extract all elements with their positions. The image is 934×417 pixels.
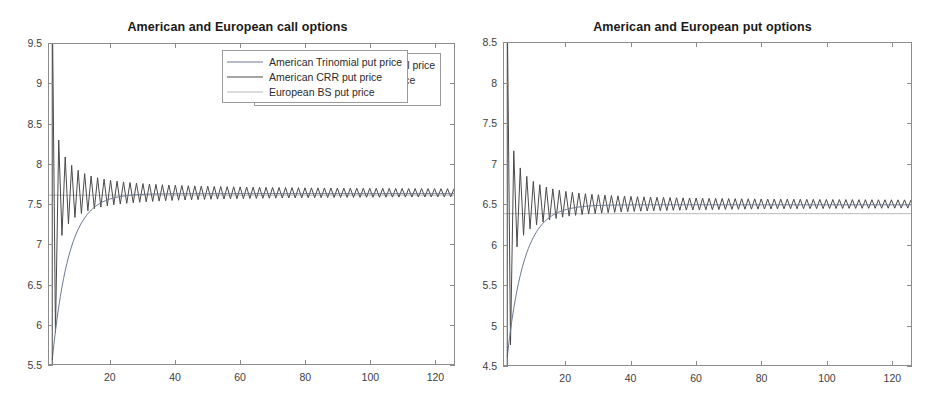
panel-put-options: American and European put options bbox=[467, 0, 934, 417]
x-axis-tick-mark bbox=[892, 361, 893, 366]
y-axis-tick-label: 6 bbox=[459, 239, 497, 251]
y-axis-tick-mark bbox=[450, 365, 455, 366]
x-axis-tick-label: 20 bbox=[104, 371, 116, 383]
x-axis-tick-label: 60 bbox=[690, 372, 702, 384]
y-axis-tick-mark bbox=[503, 326, 508, 327]
y-axis-tick-label: 7 bbox=[459, 158, 497, 170]
x-axis-tick-mark bbox=[827, 361, 828, 366]
x-axis-tick-mark bbox=[565, 361, 566, 366]
y-axis-tick-label: 6.5 bbox=[459, 198, 497, 210]
y-axis-tick-mark bbox=[450, 164, 455, 165]
x-axis-tick-label: 100 bbox=[362, 371, 380, 383]
line-swatch-icon bbox=[227, 87, 263, 97]
y-axis-tick-mark bbox=[503, 123, 508, 124]
put-chart-title: American and European put options bbox=[469, 20, 934, 34]
legend-item: American CRR put price bbox=[227, 69, 402, 84]
y-axis-tick-mark bbox=[450, 43, 455, 44]
y-axis-tick-label: 8.5 bbox=[4, 118, 42, 130]
x-axis-tick-label: 80 bbox=[756, 372, 768, 384]
y-axis-tick-mark bbox=[503, 164, 508, 165]
y-axis-tick-mark bbox=[450, 244, 455, 245]
x-axis-tick-label: 120 bbox=[427, 371, 445, 383]
x-axis-tick-mark bbox=[696, 361, 697, 366]
x-axis-tick-mark bbox=[370, 360, 371, 365]
y-axis-tick-mark bbox=[48, 325, 53, 326]
x-axis-tick-mark bbox=[240, 360, 241, 365]
y-axis-tick-mark bbox=[907, 245, 912, 246]
y-axis-tick-label: 7.5 bbox=[4, 198, 42, 210]
y-axis-tick-mark bbox=[907, 83, 912, 84]
legend-item: American Trinomial put price bbox=[227, 54, 402, 69]
y-axis-tick-label: 9 bbox=[4, 77, 42, 89]
y-axis-tick-label: 5 bbox=[459, 320, 497, 332]
y-axis-tick-label: 4.5 bbox=[459, 360, 497, 372]
y-axis-tick-label: 7 bbox=[4, 238, 42, 250]
y-axis-tick-mark bbox=[503, 366, 508, 367]
y-axis-tick-mark bbox=[907, 164, 912, 165]
y-axis-tick-mark bbox=[503, 245, 508, 246]
y-axis-tick-mark bbox=[907, 42, 912, 43]
x-axis-tick-mark bbox=[175, 360, 176, 365]
x-axis-tick-mark bbox=[761, 361, 762, 366]
x-axis-tick-mark bbox=[827, 42, 828, 47]
y-axis-tick-mark bbox=[503, 204, 508, 205]
legend-item: European BS put price bbox=[227, 84, 402, 99]
y-axis-tick-mark bbox=[48, 365, 53, 366]
call-chart-title: American and European call options bbox=[4, 20, 471, 34]
y-axis-tick-mark bbox=[450, 83, 455, 84]
legend-label: American CRR put price bbox=[269, 71, 382, 83]
y-axis-tick-mark bbox=[450, 325, 455, 326]
x-axis-tick-mark bbox=[110, 43, 111, 48]
x-axis-tick-label: 100 bbox=[818, 372, 836, 384]
x-axis-tick-label: 40 bbox=[625, 372, 637, 384]
x-axis-tick-mark bbox=[240, 43, 241, 48]
x-axis-tick-mark bbox=[631, 361, 632, 366]
x-axis-tick-label: 80 bbox=[299, 371, 311, 383]
y-axis-tick-mark bbox=[48, 124, 53, 125]
x-axis-tick-mark bbox=[435, 360, 436, 365]
x-axis-tick-mark bbox=[305, 360, 306, 365]
x-axis-tick-label: 20 bbox=[559, 372, 571, 384]
line-swatch-icon bbox=[227, 57, 263, 67]
x-axis-tick-label: 40 bbox=[169, 371, 181, 383]
put-legend: American Trinomial put price American CR… bbox=[222, 50, 408, 103]
x-axis-tick-mark bbox=[370, 43, 371, 48]
legend-label: European BS put price bbox=[269, 86, 375, 98]
x-axis-tick-label: 120 bbox=[884, 372, 902, 384]
y-axis-tick-mark bbox=[48, 285, 53, 286]
y-axis-tick-label: 5.5 bbox=[459, 279, 497, 291]
y-axis-tick-mark bbox=[450, 204, 455, 205]
y-axis-tick-mark bbox=[907, 326, 912, 327]
y-axis-tick-label: 5.5 bbox=[4, 359, 42, 371]
x-axis-tick-mark bbox=[761, 42, 762, 47]
y-axis-tick-mark bbox=[48, 244, 53, 245]
y-axis-tick-mark bbox=[48, 204, 53, 205]
y-axis-tick-mark bbox=[503, 285, 508, 286]
y-axis-tick-mark bbox=[450, 124, 455, 125]
y-axis-tick-label: 7.5 bbox=[459, 117, 497, 129]
y-axis-tick-mark bbox=[907, 285, 912, 286]
y-axis-tick-label: 6.5 bbox=[4, 279, 42, 291]
x-axis-tick-mark bbox=[110, 360, 111, 365]
line-swatch-icon bbox=[227, 72, 263, 82]
y-axis-tick-mark bbox=[48, 43, 53, 44]
x-axis-tick-mark bbox=[305, 43, 306, 48]
y-axis-tick-mark bbox=[907, 366, 912, 367]
y-axis-tick-mark bbox=[907, 204, 912, 205]
figure-canvas: American and European call options Ameri… bbox=[0, 0, 934, 417]
y-axis-tick-mark bbox=[48, 164, 53, 165]
y-axis-tick-label: 9.5 bbox=[4, 37, 42, 49]
x-axis-tick-label: 60 bbox=[234, 371, 246, 383]
y-axis-tick-label: 6 bbox=[4, 319, 42, 331]
x-axis-tick-mark bbox=[892, 42, 893, 47]
x-axis-tick-mark bbox=[696, 42, 697, 47]
legend-label: American Trinomial put price bbox=[269, 56, 402, 68]
x-axis-tick-mark bbox=[631, 42, 632, 47]
y-axis-tick-mark bbox=[503, 42, 508, 43]
put-plot-area bbox=[503, 42, 912, 366]
y-axis-tick-label: 8 bbox=[459, 77, 497, 89]
y-axis-tick-mark bbox=[450, 285, 455, 286]
x-axis-tick-mark bbox=[175, 43, 176, 48]
x-axis-tick-mark bbox=[435, 43, 436, 48]
y-axis-tick-mark bbox=[48, 83, 53, 84]
